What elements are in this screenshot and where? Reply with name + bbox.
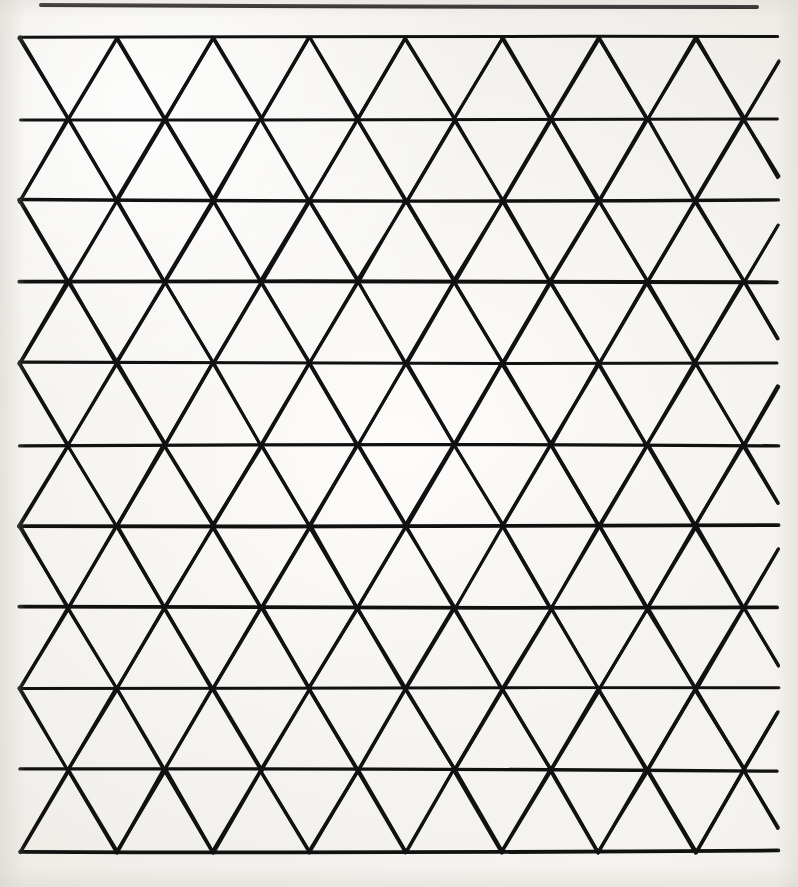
grid-diagonal-down-left — [20, 445, 69, 525]
grid-horizontal-line — [21, 119, 778, 120]
grid-diagonal-down-left — [68, 526, 117, 608]
grid-diagonal-down-right — [695, 37, 745, 118]
grid-diagonal-down-left — [116, 120, 164, 201]
grid-diagonal-down-left — [214, 769, 262, 852]
grid-diagonal-down-left — [744, 62, 779, 120]
grid-diagonal-down-right — [261, 607, 311, 689]
grid-diagonal-down-right — [647, 282, 695, 364]
horizontal-rule-stroke — [41, 5, 757, 7]
grid-diagonal-down-right — [743, 770, 777, 829]
grid-diagonal-down-left — [744, 713, 777, 769]
grid-diagonal-down-right — [358, 770, 405, 852]
grid-diagonal-down-left — [745, 549, 779, 608]
grid-diagonal-down-right — [599, 202, 647, 281]
grid-diagonal-down-left — [164, 526, 214, 608]
grid-diagonal-down-right — [357, 608, 406, 689]
grid-diagonal-down-left — [358, 363, 407, 446]
grid-diagonal-down-left — [647, 363, 695, 445]
grid-diagonal-down-right — [214, 38, 262, 118]
grid-diagonal-down-left — [261, 689, 310, 770]
grid-diagonal-down-left — [262, 364, 309, 445]
grid-diagonal-down-left — [213, 445, 263, 525]
grid-diagonal-down-right — [309, 201, 358, 282]
grid-diagonal-down-right — [406, 527, 455, 607]
grid-diagonal-down-left — [165, 200, 213, 281]
grid-diagonal-down-right — [405, 689, 454, 769]
grid-diagonal-down-left — [454, 201, 503, 281]
grid-diagonal-down-right — [695, 362, 744, 445]
grid-diagonal-down-right — [503, 526, 550, 608]
grid-diagonal-down-right — [260, 118, 309, 201]
grid-diagonal-down-right — [599, 363, 647, 445]
grid-diagonal-down-left — [407, 120, 455, 201]
grid-diagonal-down-left — [357, 526, 406, 609]
scanned-page — [0, 0, 798, 887]
grid-diagonal-down-left — [599, 445, 647, 527]
grid-diagonal-down-right — [695, 689, 745, 769]
grid-diagonal-down-right — [262, 283, 309, 363]
grid-diagonal-down-left — [20, 608, 69, 688]
grid-diagonal-down-left — [358, 688, 406, 770]
grid-diagonal-down-right — [744, 444, 778, 503]
grid-diagonal-down-left — [648, 527, 695, 609]
grid-diagonal-down-left — [117, 770, 165, 851]
grid-horizontal-line — [19, 281, 777, 282]
grid-diagonal-down-right — [19, 363, 67, 445]
grid-diagonal-down-right — [598, 688, 646, 770]
grid-diagonal-down-left — [68, 690, 117, 770]
grid-diagonal-down-right — [213, 689, 262, 771]
grid-diagonal-down-right — [648, 444, 696, 526]
grid-horizontal-line — [19, 525, 779, 526]
grid-diagonal-down-left — [599, 769, 647, 851]
grid-diagonal-down-right — [67, 769, 116, 852]
grid-diagonal-down-right — [407, 202, 455, 282]
grid-diagonal-down-left — [310, 445, 357, 527]
grid-diagonal-down-right — [69, 283, 118, 363]
grid-diagonal-down-right — [357, 119, 406, 202]
grid-diagonal-down-left — [696, 770, 743, 852]
grid-diagonal-down-right — [309, 689, 358, 771]
grid-diagonal-down-left — [214, 119, 261, 202]
grid-diagonal-down-left — [358, 38, 405, 119]
grid-diagonal-down-left — [21, 282, 68, 363]
grid-diagonal-down-right — [116, 525, 165, 607]
grid-diagonal-down-right — [551, 119, 598, 201]
grid-diagonal-down-right — [503, 200, 549, 281]
grid-horizontal-line — [20, 850, 778, 852]
grid-diagonal-down-right — [165, 281, 214, 363]
grid-diagonal-down-left — [359, 201, 406, 282]
grid-diagonal-down-right — [260, 771, 309, 853]
grid-diagonal-down-right — [117, 201, 164, 282]
grid-horizontal-line — [20, 362, 777, 363]
grid-diagonal-down-right — [502, 362, 550, 445]
grid-diagonal-down-left — [648, 38, 695, 119]
grid-diagonal-down-right — [165, 770, 214, 852]
grid-horizontal-lines — [19, 36, 779, 852]
grid-diagonal-down-right — [21, 39, 69, 120]
grid-diagonal-down-right — [164, 446, 213, 527]
grid-diagonal-down-right — [309, 525, 358, 608]
grid-diagonal-down-right — [405, 363, 454, 445]
grid-diagonal-down-right — [646, 769, 695, 853]
grid-diagonal-down-left — [455, 363, 502, 445]
grid-diagonal-down-left — [503, 446, 550, 526]
grid-diagonal-down-left — [599, 608, 647, 689]
grid-diagonal-down-right — [600, 526, 647, 607]
grid-diagonal-down-right — [213, 362, 260, 445]
grid-diagonal-down-right — [502, 689, 551, 770]
grid-diagonal-down-left — [20, 119, 67, 201]
grid-diagonal-down-left — [695, 281, 743, 363]
grid-diagonal-down-left — [67, 364, 116, 446]
grid-diagonal-down-left — [261, 526, 311, 609]
grid-diagonal-down-left — [309, 770, 358, 852]
grid-diagonal-down-left — [405, 769, 454, 853]
grid-diagonal-down-right — [310, 363, 357, 444]
grid-diagonal-down-left — [550, 38, 598, 119]
grid-diagonal-down-left — [166, 363, 213, 444]
triangular-grid-figure — [0, 0, 798, 887]
grid-diagonal-down-left — [116, 608, 164, 689]
grid-diagonal-down-right — [20, 526, 67, 608]
grid-diagonal-down-right — [551, 282, 600, 363]
grid-horizontal-line — [20, 445, 779, 446]
grid-diagonal-down-left — [165, 688, 212, 769]
